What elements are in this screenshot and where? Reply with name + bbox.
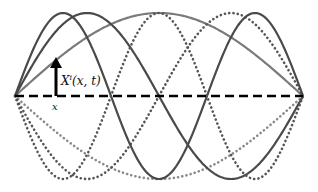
mode-1-solid-curve: [15, 13, 303, 96]
displacement-label: Xi(x, t): [60, 73, 101, 88]
standing-wave-diagram: Xi(x, t) x: [0, 0, 318, 192]
mode-1-dotted-curve: [15, 96, 303, 179]
position-label: x: [52, 101, 58, 112]
